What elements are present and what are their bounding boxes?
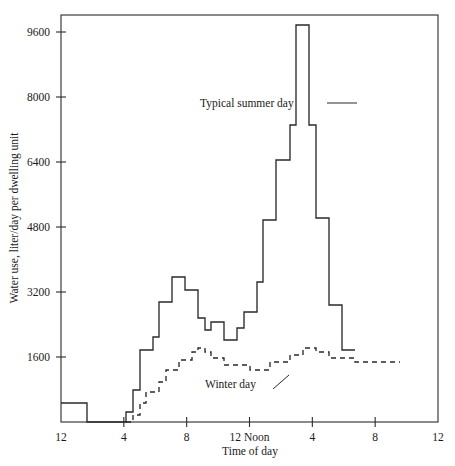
y-tick-label: 1600 (27, 351, 50, 363)
y-axis: 160032004800640080009600 (27, 26, 66, 363)
x-tick-label: 12 (432, 431, 444, 443)
series-typical-summer-day (61, 25, 355, 422)
x-tick-label: 12 Noon (230, 431, 270, 443)
x-axis-title: Time of day (222, 445, 278, 458)
y-axis-title: Water use, liter/day per dwelling unit (8, 132, 21, 304)
y-tick-label: 4800 (27, 221, 50, 233)
y-tick-label: 9600 (27, 26, 50, 38)
x-tick-label: 12 (55, 431, 67, 443)
x-tick-label: 4 (309, 431, 315, 443)
plot-frame (61, 15, 438, 422)
chart-canvas: 160032004800640080009600 124812 Noon4812… (0, 0, 455, 466)
y-tick-label: 6400 (27, 156, 50, 168)
x-tick-label: 4 (121, 431, 127, 443)
x-tick-label: 8 (372, 431, 378, 443)
x-tick-label: 8 (184, 431, 190, 443)
water-use-chart: 160032004800640080009600 124812 Noon4812… (0, 0, 455, 466)
y-tick-label: 8000 (27, 91, 50, 103)
y-tick-label: 3200 (27, 286, 50, 298)
x-axis: 124812 Noon4812 (55, 417, 444, 443)
annotation-summer-label: Typical summer day (200, 97, 294, 110)
annotation-winter-leader (273, 375, 289, 389)
annotation-winter-label: Winter day (205, 378, 256, 391)
series-winter-day (126, 348, 400, 422)
